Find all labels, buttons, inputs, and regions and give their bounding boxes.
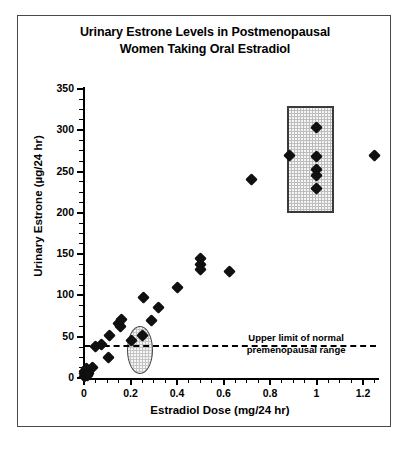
- x-tick-minor: [200, 378, 201, 383]
- y-tick-label: 50: [38, 330, 74, 342]
- plot-area: Upper limit of normal premenopausal rang…: [84, 89, 363, 378]
- x-tick-minor: [95, 378, 96, 383]
- x-tick-major: [176, 378, 178, 385]
- data-point: [102, 351, 115, 364]
- y-tick-major: [77, 336, 84, 338]
- x-tick-minor: [293, 378, 294, 383]
- x-tick-label: 0: [64, 387, 104, 399]
- y-tick-major: [77, 212, 84, 214]
- x-tick-minor: [281, 378, 282, 383]
- rect-highlight-region: [287, 106, 334, 213]
- x-tick-major: [362, 378, 364, 385]
- y-tick-label: 0: [38, 371, 74, 383]
- y-axis-title: Urinary Estrone (µg/24 hr): [32, 106, 44, 306]
- x-tick-label: 0.6: [204, 387, 244, 399]
- data-point: [171, 281, 184, 294]
- x-tick-label: 1.2: [343, 387, 383, 399]
- x-axis-line: [83, 378, 379, 380]
- x-tick-minor: [165, 378, 166, 383]
- x-tick-minor: [339, 378, 340, 383]
- x-tick-minor: [374, 378, 375, 383]
- x-tick-major: [223, 378, 225, 385]
- ref-annotation-line-1: Upper limit of normal: [247, 332, 346, 344]
- x-tick-minor: [246, 378, 247, 383]
- x-tick-label: 0.2: [111, 387, 151, 399]
- x-tick-major: [130, 378, 132, 385]
- x-tick-label: 1: [297, 387, 337, 399]
- chart-figure: Urinary Estrone Levels in Postmenopausal…: [0, 0, 409, 455]
- x-tick-minor: [107, 378, 108, 383]
- y-tick-major: [77, 129, 84, 131]
- x-tick-minor: [142, 378, 143, 383]
- x-tick-major: [316, 378, 318, 385]
- chart-title-line-1: Urinary Estrone Levels in Postmenopausal: [30, 24, 380, 41]
- y-tick-label: 350: [38, 82, 74, 94]
- data-point: [145, 314, 158, 327]
- data-point: [152, 301, 165, 314]
- x-tick-minor: [304, 378, 305, 383]
- x-tick-minor: [118, 378, 119, 383]
- x-tick-label: 0.8: [250, 387, 290, 399]
- y-tick-major: [77, 171, 84, 173]
- data-point: [103, 329, 116, 342]
- x-tick-minor: [235, 378, 236, 383]
- x-tick-major: [269, 378, 271, 385]
- data-point: [223, 265, 236, 278]
- y-tick-major: [77, 253, 84, 255]
- x-tick-minor: [188, 378, 189, 383]
- y-tick-major: [77, 88, 84, 90]
- x-tick-minor: [153, 378, 154, 383]
- x-tick-minor: [351, 378, 352, 383]
- chart-title: Urinary Estrone Levels in Postmenopausal…: [30, 24, 380, 58]
- reference-line-annotation: Upper limit of normal premenopausal rang…: [247, 332, 346, 356]
- data-point: [245, 173, 258, 186]
- y-tick-major: [77, 294, 84, 296]
- x-tick-label: 0.4: [157, 387, 197, 399]
- x-tick-minor: [211, 378, 212, 383]
- ref-annotation-line-2: premenopausal range: [247, 344, 346, 356]
- x-tick-minor: [328, 378, 329, 383]
- chart-title-line-2: Women Taking Oral Estradiol: [30, 41, 380, 58]
- x-axis-title: Estradiol Dose (mg/24 hr): [60, 404, 380, 416]
- x-tick-minor: [258, 378, 259, 383]
- data-point: [137, 292, 150, 305]
